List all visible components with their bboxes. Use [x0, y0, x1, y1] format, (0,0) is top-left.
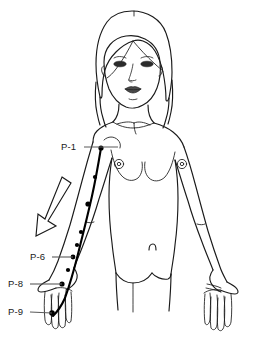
left-nipple-icon [114, 159, 123, 168]
acupoint-label-p8: P-8 [8, 279, 23, 289]
right-nipple-icon [177, 159, 186, 168]
meridian-diagram: P-1 P-6 P-8 P-9 [0, 0, 264, 337]
navel-icon [149, 244, 156, 250]
acupoint-p2 [93, 175, 97, 179]
leader-line-p9 [30, 312, 52, 313]
right-arm-group [175, 147, 238, 331]
right-eye-icon [141, 61, 153, 67]
hair-group [95, 11, 172, 128]
face-group [102, 36, 163, 108]
acupoint-label-p1: P-1 [61, 142, 76, 152]
torso-outline-group [93, 122, 184, 312]
anatomy-illustration [0, 0, 264, 337]
acupoint-p4 [79, 230, 83, 234]
left-eye-icon [114, 61, 126, 67]
acupoint-label-p6: P-6 [30, 252, 45, 262]
acupoint-label-p9: P-9 [8, 307, 23, 317]
acupoint-p1 [98, 145, 103, 150]
meridian-points-group [49, 145, 103, 315]
pericardium-meridian-line [53, 148, 101, 316]
acupoint-p5 [75, 243, 79, 247]
flow-direction-arrow [36, 177, 71, 236]
acupoint-p7 [66, 268, 70, 272]
acupoint-p3 [85, 201, 90, 206]
facial-features-group [114, 57, 153, 100]
